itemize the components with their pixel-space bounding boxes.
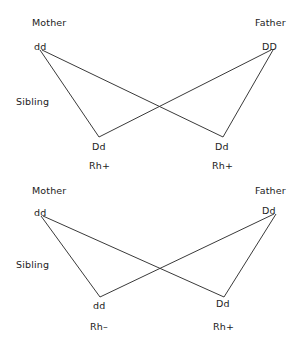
mother-role-label: Mother	[32, 18, 66, 28]
edge-father-to-child1	[99, 50, 271, 137]
child2-genotype-label: Dd	[216, 299, 230, 309]
edge-father-to-child2	[224, 214, 276, 297]
sibling-label: Sibling	[16, 260, 49, 270]
edge-father-to-child1	[100, 214, 274, 297]
child1-genotype-label: Dd	[92, 142, 106, 152]
sibling-label: Sibling	[16, 97, 49, 107]
child2-phenotype-label: Rh+	[213, 322, 234, 332]
child1-phenotype-label: Rh–	[90, 322, 108, 332]
father-genotype-label: Dd	[262, 206, 276, 216]
father-role-label: Father	[255, 18, 286, 28]
father-genotype-label: DD	[262, 42, 277, 52]
edge-father-to-child2	[223, 50, 273, 137]
pedigree-chart-top: Mother Father dd DD Sibling Dd Rh+ Dd Rh…	[0, 0, 302, 170]
mother-genotype-label: dd	[34, 208, 46, 218]
father-role-label: Father	[255, 186, 286, 196]
mother-role-label: Mother	[32, 186, 66, 196]
child2-genotype-label: Dd	[215, 142, 229, 152]
pedigree-chart-bottom: Mother Father dd Dd Sibling dd Rh– Dd Rh…	[0, 168, 302, 338]
mother-genotype-label: dd	[34, 42, 46, 52]
child1-genotype-label: dd	[93, 301, 105, 311]
